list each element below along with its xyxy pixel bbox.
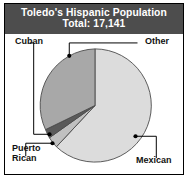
pie-label-other: Other — [145, 37, 169, 47]
chart-frame: Toledo's Hispanic Population Total: 17,1… — [4, 3, 184, 175]
pie-label-mexican: Mexican — [136, 156, 172, 166]
chart-total: Total: 17,141 — [63, 19, 126, 30]
pie-label-puerto-rican: Puerto Rican — [12, 144, 41, 163]
pie-label-puerto-rican-line2: Rican — [12, 154, 41, 164]
pie-label-cuban: Cuban — [15, 37, 43, 47]
chart-figure: Toledo's Hispanic Population Total: 17,1… — [0, 0, 188, 182]
chart-title-bar: Toledo's Hispanic Population Total: 17,1… — [5, 4, 183, 34]
